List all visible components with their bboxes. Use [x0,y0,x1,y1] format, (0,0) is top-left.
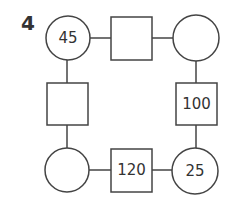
right-square-value: 100 [182,95,211,113]
bottom-right-circle-value: 25 [185,162,204,180]
bottom-left-circle [45,148,89,192]
top-right-circle [173,15,219,61]
top-left-circle-value: 45 [58,29,77,47]
left-square [47,83,88,125]
number-puzzle-diagram: 45 100 120 25 [0,0,232,209]
top-square [111,17,152,60]
bottom-square-value: 120 [117,161,146,179]
